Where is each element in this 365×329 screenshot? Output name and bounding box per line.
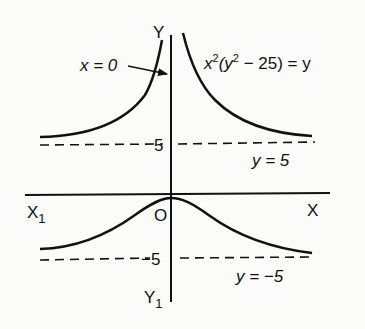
curve-upper-left-branch: [40, 40, 162, 137]
equation-label: x2(y2 − 25) = y: [203, 52, 311, 73]
x-axis-label: X: [307, 201, 318, 220]
y-axis-label: Y: [153, 23, 164, 42]
tick-label-neg5: −5: [141, 250, 160, 269]
x-neg-axis-label: X1: [27, 203, 46, 226]
asymptote-label-yneg5: y = −5: [235, 267, 284, 286]
curve-upper-right-branch: [183, 33, 312, 136]
y-neg-axis-label: Y1: [144, 288, 163, 311]
origin-label: O: [154, 206, 167, 225]
annotation-label: x = 0: [79, 56, 118, 75]
asymptote-y-5: [40, 142, 315, 145]
tick-label-5: 5: [154, 136, 163, 155]
asymptote-label-y5: y = 5: [251, 151, 290, 170]
curve-lower-branch: [40, 198, 312, 253]
asymptote-y-neg5: [40, 257, 313, 260]
x-axis: [25, 193, 330, 195]
curve-diagram: x = 0 x2(y2 − 25) = y Y X X1 Y1 O 5 −5 y…: [0, 0, 365, 329]
